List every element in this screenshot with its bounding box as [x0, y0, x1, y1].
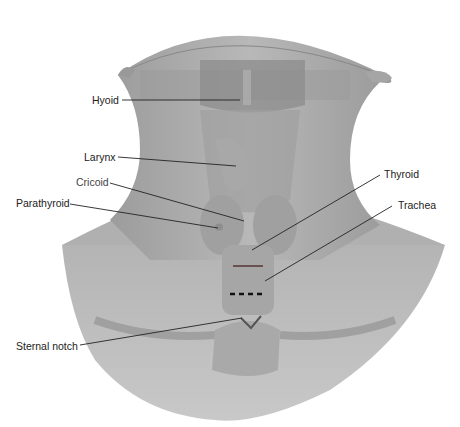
label-sternal-notch: Sternal notch [16, 340, 78, 352]
sternum-structure [212, 321, 280, 376]
label-cricoid: Cricoid [76, 176, 109, 188]
label-parathyroid: Parathyroid [16, 197, 70, 209]
label-larynx: Larynx [84, 151, 116, 163]
neck-illustration [0, 0, 460, 427]
label-thyroid: Thyroid [384, 168, 419, 180]
hyoid-structure [200, 60, 305, 113]
label-trachea: Trachea [398, 199, 436, 211]
label-hyoid: Hyoid [92, 94, 119, 106]
